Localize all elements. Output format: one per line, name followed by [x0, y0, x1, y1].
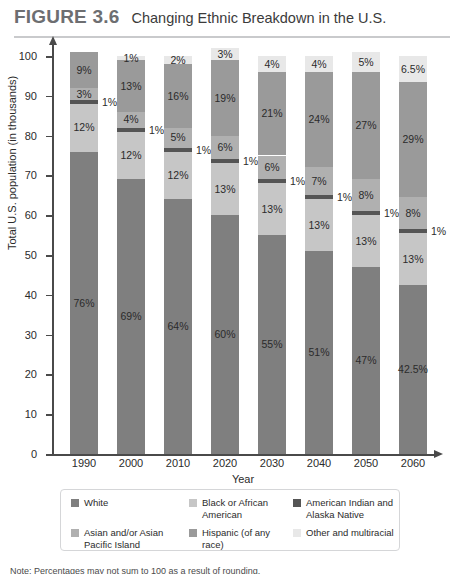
segment-2030-asian-and-or-asian-pacific-island[interactable]: 6% — [258, 156, 286, 180]
figure-container: FIGURE 3.6 Changing Ethnic Breakdown in … — [0, 0, 462, 574]
segment-value-label: 7% — [311, 176, 326, 187]
segment-2000-other-and-multiracial[interactable]: 1% — [117, 56, 145, 60]
segment-1990-black-or-african-american[interactable]: 12% — [70, 104, 98, 152]
header-divider — [14, 36, 450, 38]
segment-callout-label: 1% — [196, 144, 211, 156]
segment-2000-asian-and-or-asian-pacific-island[interactable]: 4% — [117, 112, 145, 128]
y-tick-label: 30 — [25, 329, 37, 341]
segment-2020-american-indian-and-alaska-native[interactable]: 1% — [211, 159, 239, 163]
segment-1990-hispanic-of-any-race[interactable]: 9% — [70, 52, 98, 88]
legend-grid: WhiteBlack or African AmericanAmerican I… — [71, 497, 389, 550]
figure-number: FIGURE 3.6 — [14, 6, 119, 28]
segment-2040-black-or-african-american[interactable]: 13% — [305, 199, 333, 251]
segment-2040-asian-and-or-asian-pacific-island[interactable]: 7% — [305, 167, 333, 195]
segment-2050-asian-and-or-asian-pacific-island[interactable]: 8% — [352, 179, 380, 211]
legend: WhiteBlack or African AmericanAmerican I… — [60, 489, 400, 551]
segment-2030-american-indian-and-alaska-native[interactable]: 1% — [258, 179, 286, 183]
y-axis-line — [52, 44, 54, 454]
segment-2010-asian-and-or-asian-pacific-island[interactable]: 5% — [164, 128, 192, 148]
segment-2040-other-and-multiracial[interactable]: 4% — [305, 56, 333, 72]
legend-label-hispanic: Hispanic (of any race) — [202, 527, 293, 550]
bar-2040[interactable]: 51%13%1%7%24%4% — [305, 44, 333, 454]
segment-2060-asian-and-or-asian-pacific-island[interactable]: 8% — [399, 197, 427, 229]
segment-2030-other-and-multiracial[interactable]: 4% — [258, 56, 286, 72]
segment-value-label: 13% — [355, 236, 376, 247]
segment-2010-white[interactable]: 64% — [164, 199, 192, 454]
segment-2020-hispanic-of-any-race[interactable]: 19% — [211, 60, 239, 136]
segment-2020-asian-and-or-asian-pacific-island[interactable]: 6% — [211, 136, 239, 160]
segment-value-label: 12% — [120, 150, 141, 161]
segment-2040-hispanic-of-any-race[interactable]: 24% — [305, 72, 333, 168]
segment-2050-white[interactable]: 47% — [352, 267, 380, 454]
x-tick-label-2000: 2000 — [119, 457, 143, 469]
segment-callout-label: 1% — [290, 175, 305, 187]
segment-2060-american-indian-and-alaska-native[interactable]: 1% — [399, 229, 427, 233]
bar-2050[interactable]: 47%13%1%8%27%5% — [352, 44, 380, 454]
segment-2020-white[interactable]: 60% — [211, 215, 239, 454]
legend-item-other[interactable]: Other and multiracial — [293, 527, 411, 550]
y-tick: 10 — [46, 414, 52, 416]
segment-value-label: 13% — [214, 184, 235, 195]
bar-2000[interactable]: 69%12%1%4%13%1% — [117, 44, 145, 454]
segment-2030-white[interactable]: 55% — [258, 235, 286, 454]
segment-value-label: 6% — [264, 162, 279, 173]
segment-2010-american-indian-and-alaska-native[interactable]: 1% — [164, 148, 192, 152]
x-tick-label-2030: 2030 — [260, 457, 284, 469]
x-tick-label-2060: 2060 — [401, 457, 425, 469]
legend-item-american-indian[interactable]: American Indian and Alaska Native — [293, 497, 411, 520]
y-tick-label: 80 — [25, 130, 37, 142]
legend-label-black: Black or African American — [202, 497, 293, 520]
segment-2000-black-or-african-american[interactable]: 12% — [117, 132, 145, 180]
segment-value-label: 27% — [355, 120, 376, 131]
legend-swatch-hispanic — [189, 529, 197, 537]
segment-2050-hispanic-of-any-race[interactable]: 27% — [352, 72, 380, 179]
segment-2060-other-and-multiracial[interactable]: 6.5% — [399, 56, 427, 82]
segment-2060-black-or-african-american[interactable]: 13% — [399, 233, 427, 285]
segment-2030-black-or-african-american[interactable]: 13% — [258, 183, 286, 235]
segment-2040-white[interactable]: 51% — [305, 251, 333, 454]
segment-1990-white[interactable]: 76% — [70, 152, 98, 454]
legend-item-black[interactable]: Black or African American — [189, 497, 293, 520]
figure-header: FIGURE 3.6 Changing Ethnic Breakdown in … — [14, 6, 450, 36]
segment-2000-american-indian-and-alaska-native[interactable]: 1% — [117, 128, 145, 132]
bar-2010[interactable]: 64%12%1%5%16%2% — [164, 44, 192, 454]
segment-callout-label: 1% — [149, 124, 164, 136]
plot-area: 0102030405060708090100 76%12%1%3%9%69%12… — [52, 44, 448, 466]
legend-item-white[interactable]: White — [71, 497, 189, 520]
segment-2060-hispanic-of-any-race[interactable]: 29% — [399, 82, 427, 197]
segment-value-label: 5% — [358, 57, 373, 68]
legend-label-white: White — [84, 497, 108, 509]
segment-2000-white[interactable]: 69% — [117, 179, 145, 454]
y-tick-label: 60 — [25, 209, 37, 221]
segment-2050-black-or-african-american[interactable]: 13% — [352, 215, 380, 267]
segment-1990-asian-and-or-asian-pacific-island[interactable]: 3% — [70, 88, 98, 100]
bar-2030[interactable]: 55%13%1%6%21%4% — [258, 44, 286, 454]
segment-value-label: 42.5% — [398, 364, 428, 375]
segment-value-label: 29% — [402, 134, 423, 145]
segment-2050-other-and-multiracial[interactable]: 5% — [352, 52, 380, 72]
y-tick: 30 — [46, 335, 52, 337]
legend-item-asian[interactable]: Asian and/or Asian Pacific Island — [71, 527, 189, 550]
y-tick: 20 — [46, 374, 52, 376]
segment-2050-american-indian-and-alaska-native[interactable]: 1% — [352, 211, 380, 215]
x-tick-label-2020: 2020 — [213, 457, 237, 469]
segment-1990-american-indian-and-alaska-native[interactable]: 1% — [70, 100, 98, 104]
segment-value-label: 1% — [123, 53, 138, 64]
segment-2040-american-indian-and-alaska-native[interactable]: 1% — [305, 195, 333, 199]
segment-2020-black-or-african-american[interactable]: 13% — [211, 163, 239, 215]
segment-2060-white[interactable]: 42.5% — [399, 285, 427, 454]
bar-2020[interactable]: 60%13%1%6%19%3% — [211, 44, 239, 454]
segment-value-label: 5% — [170, 132, 185, 143]
segment-2000-hispanic-of-any-race[interactable]: 13% — [117, 60, 145, 112]
bar-1990[interactable]: 76%12%1%3%9% — [70, 44, 98, 454]
segment-callout-label: 1% — [431, 225, 446, 237]
segment-2010-hispanic-of-any-race[interactable]: 16% — [164, 64, 192, 128]
legend-item-hispanic[interactable]: Hispanic (of any race) — [189, 527, 293, 550]
y-tick: 50 — [46, 255, 52, 257]
legend-label-other: Other and multiracial — [306, 527, 394, 539]
segment-2030-hispanic-of-any-race[interactable]: 21% — [258, 72, 286, 156]
segment-2010-black-or-african-american[interactable]: 12% — [164, 152, 192, 200]
bar-2060[interactable]: 42.5%13%1%8%29%6.5% — [399, 44, 427, 454]
segment-2020-other-and-multiracial[interactable]: 3% — [211, 48, 239, 60]
segment-2010-other-and-multiracial[interactable]: 2% — [164, 56, 192, 64]
